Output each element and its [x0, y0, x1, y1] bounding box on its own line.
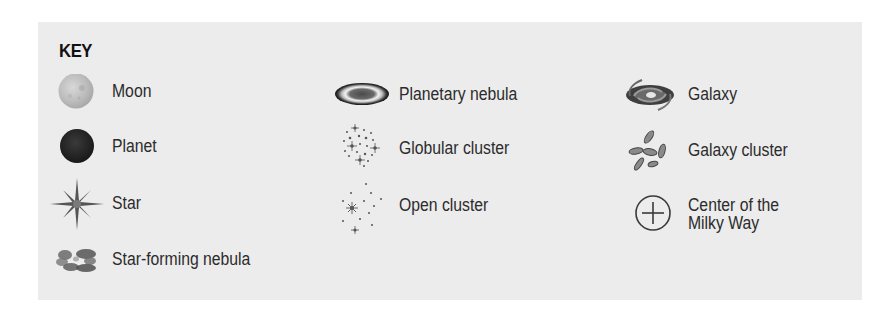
key-label-galaxy: Galaxy — [688, 85, 737, 103]
star-forming-nebula-icon — [56, 247, 102, 273]
key-label-planetary-nebula: Planetary nebula — [399, 85, 517, 103]
moon-icon — [56, 74, 96, 114]
key-label-moon: Moon — [112, 82, 151, 100]
key-label-star: Star — [112, 194, 141, 212]
milky-way-center-icon — [634, 194, 672, 232]
key-label-galaxy-cluster: Galaxy cluster — [688, 141, 788, 159]
open-cluster-icon — [338, 182, 388, 238]
key-label-planet: Planet — [112, 137, 157, 155]
key-label-globular-cluster: Globular cluster — [399, 139, 509, 157]
planet-icon — [56, 129, 96, 169]
star-icon — [50, 178, 104, 230]
globular-cluster-icon — [338, 124, 382, 168]
galaxy-cluster-icon — [624, 129, 670, 175]
key-label-milky-way-center-line1: Center of the — [688, 196, 779, 214]
key-label-open-cluster: Open cluster — [399, 196, 488, 214]
key-label-star-forming-nebula: Star-forming nebula — [112, 250, 250, 268]
key-label-milky-way-center-line2: Milky Way — [688, 214, 759, 232]
map-key-panel: KEY Moon — [38, 22, 862, 300]
planetary-nebula-icon — [334, 82, 390, 106]
key-title: KEY — [59, 40, 92, 62]
galaxy-icon — [622, 78, 678, 112]
